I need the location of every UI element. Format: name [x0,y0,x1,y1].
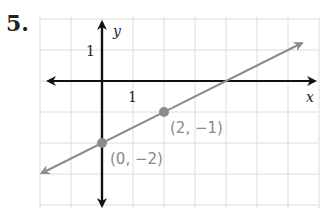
point-label-2-neg1: (2, −1) [170,119,223,137]
point-0-neg2 [97,138,107,148]
graphed-line [172,43,302,108]
point-label-0-neg2: (0, −2) [110,150,163,168]
coordinate-graph: 1 1 y x (0, −2) (2, −1) [0,0,335,219]
x-axis-label: x [306,89,314,105]
y-axis-label: y [112,23,122,39]
x-tick-label: 1 [128,89,137,105]
point-2-neg1 [159,107,169,117]
grid-lines [40,17,319,208]
y-tick-label: 1 [86,43,95,59]
